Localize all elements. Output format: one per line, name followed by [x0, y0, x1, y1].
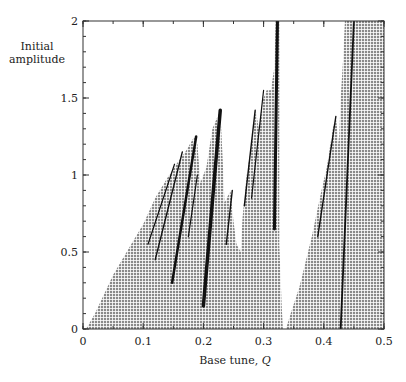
stable-region-left	[86, 21, 283, 329]
x-tick-label: 0.2	[195, 335, 213, 348]
y-tick-label: 1	[71, 169, 78, 182]
y-tick-label: 0	[71, 323, 78, 336]
stability-regions	[86, 21, 384, 329]
x-tick-label: 0.4	[315, 335, 333, 348]
x-tick-label: 0.3	[255, 335, 273, 348]
x-tick-label: 0.1	[134, 335, 152, 348]
stable-region-right	[286, 21, 384, 329]
y-tick-label: 2	[71, 15, 78, 28]
y-tick-label: 1.5	[61, 92, 79, 105]
x-tick-label: 0	[80, 335, 87, 348]
x-tick-label: 0.5	[375, 335, 393, 348]
chart-plot: 00.10.20.30.40.500.511.52	[0, 0, 406, 382]
y-tick-label: 0.5	[61, 246, 79, 259]
